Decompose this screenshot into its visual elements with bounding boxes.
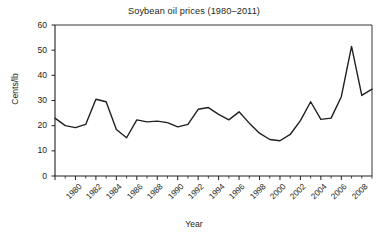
y-tick-label: 50 (25, 45, 47, 55)
data-series-line (55, 46, 372, 140)
plot-area (0, 0, 388, 237)
chart-figure: Soybean oil prices (1980–2011) Cents/lb … (0, 0, 388, 237)
y-tick-label: 60 (25, 20, 47, 30)
y-tick-label: 30 (25, 95, 47, 105)
y-tick-label: 20 (25, 120, 47, 130)
x-tick-marks (55, 176, 372, 180)
y-tick-label: 40 (25, 70, 47, 80)
y-tick-label: 10 (25, 145, 47, 155)
y-tick-label: 0 (25, 171, 47, 181)
